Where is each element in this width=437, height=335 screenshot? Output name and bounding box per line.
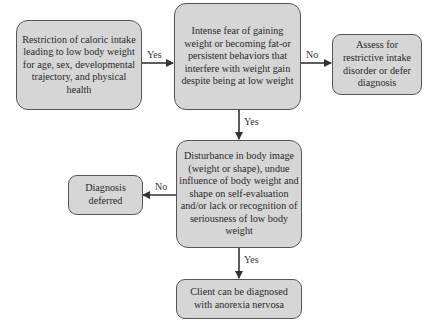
node-fear: Intense fear of gaining weight or becomi… (174, 3, 301, 110)
edge-label-fear-to-disturbance: Yes (244, 117, 259, 127)
node-diagnosed: Client can be diagnosed with anorexia ne… (176, 279, 302, 319)
edge-label-restriction-to-fear: Yes (147, 50, 162, 60)
node-fear-text: Intense fear of gaining weight or becomi… (179, 25, 296, 88)
edge-label-disturbance-to-deferred: No (155, 182, 167, 192)
node-assess: Assess for restrictive intake disorder o… (332, 34, 422, 95)
node-deferred: Diagnosis deferred (68, 175, 143, 215)
edge-label-fear-to-assess: No (306, 50, 318, 60)
node-restriction-text: Restriction of caloric intake leading to… (21, 34, 137, 97)
edge-label-disturbance-to-diagnosed: Yes (244, 255, 259, 265)
node-restriction: Restriction of caloric intake leading to… (16, 20, 142, 110)
node-assess-text: Assess for restrictive intake disorder o… (339, 39, 415, 89)
node-disturbance: Disturbance in body image (weight or sha… (176, 140, 302, 248)
node-deferred-text: Diagnosis deferred (83, 182, 128, 207)
node-diagnosed-text: Client can be diagnosed with anorexia ne… (189, 286, 289, 311)
node-disturbance-text: Disturbance in body image (weight or sha… (179, 150, 299, 238)
